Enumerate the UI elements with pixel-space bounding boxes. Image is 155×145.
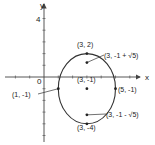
- label-center: (3, -1): [77, 76, 96, 84]
- label-lower-focus: (3, -1 - √5): [106, 111, 139, 119]
- label-top-vertex: (3, 2): [77, 41, 93, 49]
- leader-line-left-vertex: [38, 89, 58, 94]
- point-lower-focus: [86, 113, 89, 116]
- ellipse-diagram: x y 0 4 (3, 2) (3, -1 + √5) (3, -1) (1, …: [0, 0, 155, 145]
- point-center: [86, 87, 89, 90]
- y-tick-label-4: 4: [36, 15, 41, 24]
- label-right-vertex: (5, -1): [118, 86, 137, 94]
- point-right-vertex: [114, 87, 117, 90]
- point-top-vertex: [86, 52, 89, 55]
- point-upper-focus: [86, 61, 89, 64]
- x-axis-label: x: [145, 73, 149, 82]
- leader-line-lower-focus: [87, 114, 106, 115]
- origin-label: 0: [37, 77, 42, 86]
- y-axis-label: y: [40, 1, 44, 10]
- label-left-vertex: (1, -1): [12, 91, 31, 99]
- label-bottom-vertex: (3, -4): [77, 124, 96, 132]
- label-upper-focus: (3, -1 + √5): [104, 52, 138, 60]
- point-left-vertex: [57, 87, 60, 90]
